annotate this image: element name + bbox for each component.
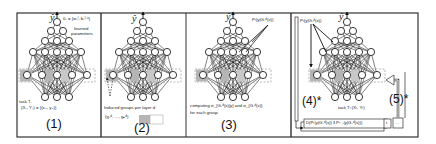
- neural-network-panel-3: [195, 12, 271, 101]
- neuron-node: [41, 37, 48, 44]
- neuron-node: [331, 93, 338, 100]
- neuron-node: [47, 27, 54, 34]
- neuron-node: [343, 48, 350, 55]
- params-note-line-2: parameters: [71, 32, 93, 36]
- neuron-node: [65, 37, 72, 44]
- neuron-node: [145, 27, 152, 34]
- neuron-node: [139, 37, 146, 44]
- neuron-node: [229, 48, 236, 55]
- neuron-node: [151, 93, 158, 100]
- neuron-node: [53, 93, 60, 100]
- neuron-node: [68, 71, 75, 78]
- neuron-node: [139, 18, 146, 25]
- neuron-node: [235, 27, 242, 34]
- neuron-node: [139, 93, 146, 100]
- step-label-5: (5)*: [389, 93, 408, 105]
- task-label-panel-4: task Tₜ (Xₜ, Yₜ): [338, 106, 365, 110]
- neuron-node: [41, 48, 48, 55]
- neuron-node: [115, 48, 122, 55]
- loop-left-rail: [295, 17, 298, 121]
- params-formula: θ₁ = {w₁ˡ, b₁ˡ⁺¹}: [63, 17, 90, 21]
- neuron-node: [127, 93, 134, 100]
- induced-groups-caption: Induced groups per layer d: [104, 106, 155, 110]
- neuron-node: [343, 37, 350, 44]
- neuron-node: [217, 37, 224, 44]
- neuron-node: [124, 71, 131, 78]
- neuron-node: [199, 71, 206, 78]
- neuron-node: [127, 48, 134, 55]
- task-dataset-panel-1: (X₁, Y₁) = {(x₁ᵢ, y₁ᵢ)}: [21, 106, 56, 110]
- neuron-node: [355, 93, 362, 100]
- kl-divergence-formula: D(Pₜ(y|G₁ᵈ(x)) ‖ Pₜ₋₁(y|G₁ᵈ(x))): [306, 121, 362, 125]
- neuron-node: [343, 18, 350, 25]
- neuron-node: [331, 48, 338, 55]
- neuron-node: [244, 71, 251, 78]
- neuron-node: [229, 37, 236, 44]
- neuron-node: [343, 93, 350, 100]
- loop-cell-t: t: [386, 121, 387, 125]
- neuron-node: [154, 71, 161, 78]
- neuron-node: [337, 27, 344, 34]
- output-label-panel-1: ŷ: [50, 13, 54, 23]
- neuron-node: [127, 37, 134, 44]
- neuron-node: [223, 27, 230, 34]
- neuron-node: [367, 48, 374, 55]
- neuron-node: [229, 18, 236, 25]
- neuron-node: [23, 71, 30, 78]
- neuron-node: [253, 48, 260, 55]
- neuron-node: [53, 37, 60, 44]
- neuron-node: [77, 48, 84, 55]
- neuron-node: [53, 18, 60, 25]
- group-swatch-empty: [150, 115, 163, 124]
- neuron-node: [205, 48, 212, 55]
- neuron-node: [59, 27, 66, 34]
- neuron-node: [139, 71, 146, 78]
- neuron-node: [151, 48, 158, 55]
- neuron-node: [139, 48, 146, 55]
- neuron-node: [217, 93, 224, 100]
- neural-network-panel-2: [105, 12, 181, 101]
- neuron-node: [343, 71, 350, 78]
- neuron-node: [65, 48, 72, 55]
- neuron-node: [29, 48, 36, 55]
- neuron-node: [151, 37, 158, 44]
- neuron-node: [241, 48, 248, 55]
- task-label-panel-1: task T₁: [19, 100, 32, 104]
- neuron-node: [109, 71, 116, 78]
- neuron-node: [214, 71, 221, 78]
- loop-cell-ellipsis: ...: [395, 121, 399, 125]
- groups-set-label: (g₁ᵈ, …, gₙᵈ): [105, 115, 128, 119]
- neuron-node: [241, 93, 248, 100]
- neuron-node: [373, 71, 380, 78]
- neuron-node: [259, 71, 266, 78]
- neuron-node: [229, 93, 236, 100]
- neuron-node: [355, 37, 362, 44]
- neuron-node: [41, 93, 48, 100]
- continual-learning-diagram: ŷ θ₁ = {w₁ˡ, b₁ˡ⁺¹} learned parameters t…: [0, 0, 436, 144]
- computing-caption: computing σ_{G₁ᵈ(x)|y} and σ_{G₁ᵈ(x)}: [190, 104, 263, 108]
- neuron-node: [169, 71, 176, 78]
- neuron-node: [313, 71, 320, 78]
- neuron-node: [133, 27, 140, 34]
- neuron-node: [229, 71, 236, 78]
- step-label-2: (2): [134, 121, 150, 134]
- output-label-panel-4: ŷ: [339, 12, 343, 22]
- step-label-4: (4)*: [302, 95, 321, 107]
- for-each-group-caption: for each group: [190, 111, 218, 115]
- neuron-node: [355, 48, 362, 55]
- output-label-panel-3: ŷ: [226, 12, 230, 22]
- output-label-panel-2: ŷ: [132, 14, 136, 24]
- neuron-node: [349, 27, 356, 34]
- neuron-node: [163, 48, 170, 55]
- neuron-node: [65, 93, 72, 100]
- step-label-1: (1): [46, 117, 62, 130]
- neuron-node: [83, 71, 90, 78]
- neuron-node: [53, 48, 60, 55]
- prob-label-panel-3: Pₜ(y|G₁ᵈ(x)): [252, 18, 273, 22]
- neuron-node: [328, 71, 335, 78]
- neuron-node: [53, 71, 60, 78]
- neuron-node: [217, 48, 224, 55]
- neural-network-panel-4: [309, 12, 385, 101]
- step-label-3: (3): [221, 118, 237, 131]
- diagram-canvas: [0, 0, 436, 144]
